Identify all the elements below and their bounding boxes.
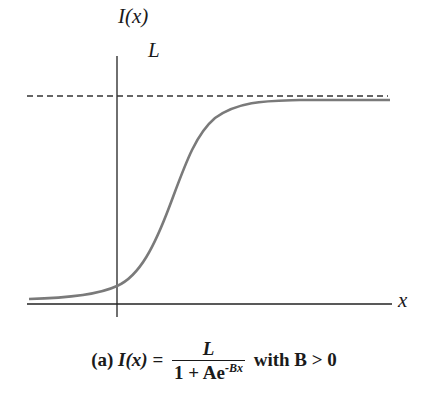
x-axis-label: x <box>398 288 407 313</box>
figure-caption: (a) I(x) = L 1 + Ae-Bx with B > 0 <box>0 338 428 384</box>
caption-condition: with B > 0 <box>254 349 337 370</box>
logistic-curve <box>29 100 390 299</box>
caption-denominator: 1 + Ae-Bx <box>172 361 245 384</box>
caption-prefix: (a) <box>91 349 113 370</box>
caption-denominator-base: 1 + Ae <box>174 362 225 383</box>
y-axis-label: I(x) <box>118 4 148 29</box>
caption-exponent: -Bx <box>225 361 243 375</box>
caption-equals: = <box>152 349 163 370</box>
caption-numerator: L <box>172 338 245 361</box>
caption-fraction: L 1 + Ae-Bx <box>172 338 245 384</box>
logistic-curve-figure <box>0 0 428 330</box>
asymptote-label: L <box>148 38 160 63</box>
caption-lhs: I(x) <box>118 349 148 370</box>
